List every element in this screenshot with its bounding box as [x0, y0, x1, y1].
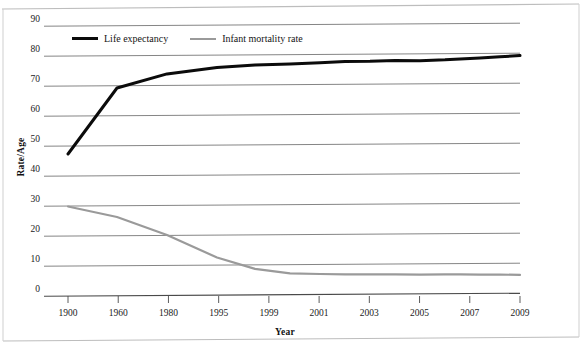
y-axis-tick-label: 0: [14, 284, 40, 294]
gray-line-swatch-icon: [190, 38, 216, 40]
x-axis-tick-label: 2001: [296, 308, 342, 318]
y-axis-tick-label: 80: [14, 44, 40, 54]
gridline: [44, 83, 520, 86]
gridline: [44, 173, 520, 176]
gridline: [44, 113, 520, 116]
gridline: [44, 203, 520, 206]
x-axis-tick-label: 1960: [95, 308, 141, 318]
y-axis-tick-label: 30: [14, 194, 40, 204]
y-axis-tick-label: 70: [14, 74, 40, 84]
gridline: [44, 263, 520, 266]
chart-legend: Life expectancy Infant mortality rate: [72, 33, 303, 44]
x-axis-tick-label: 1980: [145, 308, 191, 318]
chart-figure: 0102030405060708090 19001960198019951999…: [0, 0, 581, 350]
y-axis-title: Rate/Age: [16, 127, 26, 187]
gridline: [44, 53, 520, 56]
y-axis-tick-label: 60: [14, 104, 40, 114]
gridline: [44, 293, 520, 296]
x-axis-tick-label: 1900: [45, 308, 91, 318]
x-axis-tick-label: 2003: [346, 308, 392, 318]
y-axis-tick-label: 20: [14, 224, 40, 234]
x-axis-tick-label: 2007: [447, 308, 493, 318]
series-line-life-expectancy: [68, 56, 520, 154]
plot-area: [0, 0, 581, 350]
x-axis-tick-label: 1999: [246, 308, 292, 318]
gridline: [44, 23, 520, 26]
x-axis-tick-label: 1995: [196, 308, 242, 318]
gridline: [44, 233, 520, 236]
x-axis-tick-label: 2009: [497, 308, 543, 318]
gridline: [44, 143, 520, 146]
legend-label-infant-mortality-rate: Infant mortality rate: [222, 33, 303, 44]
y-axis-tick-label: 10: [14, 254, 40, 264]
legend-item-infant-mortality-rate: Infant mortality rate: [190, 33, 303, 44]
x-axis-tick-label: 2005: [397, 308, 443, 318]
legend-item-life-expectancy: Life expectancy: [72, 33, 168, 44]
legend-label-life-expectancy: Life expectancy: [104, 33, 168, 44]
x-axis-title: Year: [245, 327, 325, 337]
black-line-swatch-icon: [72, 37, 98, 40]
x-axis-ticks: [68, 296, 520, 303]
data-series-layer: [68, 56, 520, 275]
y-axis-tick-label: 90: [14, 14, 40, 24]
